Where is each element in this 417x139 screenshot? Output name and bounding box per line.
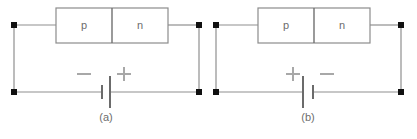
circuit-a: p n (a) bbox=[11, 8, 202, 123]
p-region-label-b: p bbox=[283, 19, 289, 31]
circuit-a-wires bbox=[14, 25, 199, 92]
circuit-a-nodes bbox=[11, 22, 202, 95]
node-b-bottom-left bbox=[213, 89, 219, 95]
figure-canvas: p n (a) bbox=[0, 0, 417, 139]
pn-junction-bias-figure: p n (a) bbox=[0, 0, 417, 139]
circuit-b: p n (b) bbox=[213, 8, 404, 123]
node-b-top-left bbox=[213, 22, 219, 28]
p-region-label-a: p bbox=[81, 19, 87, 31]
battery-a-plus-sign bbox=[117, 67, 131, 81]
node-b-bottom-right bbox=[398, 89, 404, 95]
circuit-b-wires bbox=[216, 25, 401, 92]
node-a-top-left bbox=[11, 22, 17, 28]
node-a-top-right bbox=[196, 22, 202, 28]
node-b-top-right bbox=[398, 22, 404, 28]
n-region-label-a: n bbox=[137, 19, 143, 31]
node-a-bottom-right bbox=[196, 89, 202, 95]
node-a-bottom-left bbox=[11, 89, 17, 95]
caption-a: (a) bbox=[99, 111, 112, 123]
battery-b-plus-sign bbox=[286, 67, 300, 81]
pn-junction-block-a: p n bbox=[56, 8, 168, 43]
battery-b bbox=[303, 76, 313, 108]
caption-b: (b) bbox=[301, 111, 314, 123]
pn-junction-block-b: p n bbox=[258, 8, 370, 43]
n-region-label-b: n bbox=[339, 19, 345, 31]
circuit-b-nodes bbox=[213, 22, 404, 95]
battery-a bbox=[102, 76, 110, 108]
